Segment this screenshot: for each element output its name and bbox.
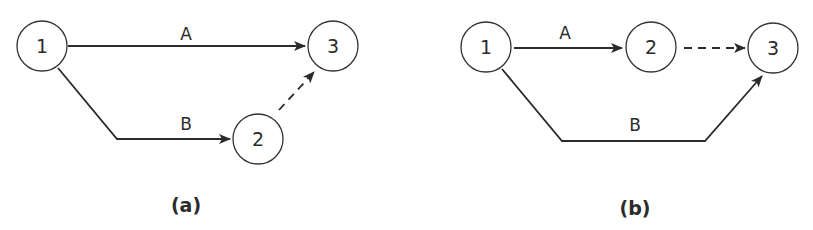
node-2: 2 — [626, 22, 676, 72]
network-diagrams: A B 1 3 2 (a) A B 1 2 — [0, 0, 813, 230]
edge-label-a: A — [180, 24, 192, 44]
diagram-a: A B 1 3 2 (a) — [17, 21, 358, 216]
svg-text:3: 3 — [767, 37, 779, 59]
edge-dummy-2-3 — [279, 72, 314, 110]
svg-text:1: 1 — [480, 36, 492, 58]
edge-label-b: B — [180, 114, 192, 134]
svg-text:2: 2 — [645, 36, 657, 58]
caption-b: (b) — [620, 197, 651, 219]
caption-a: (a) — [171, 194, 201, 216]
node-3: 3 — [748, 23, 798, 73]
svg-text:1: 1 — [36, 35, 48, 57]
diagram-b: A B 1 2 3 (b) — [461, 22, 798, 219]
edge-b-1-2 — [58, 68, 230, 139]
node-1: 1 — [17, 21, 67, 71]
svg-text:3: 3 — [327, 35, 339, 57]
node-2: 2 — [233, 114, 283, 164]
node-3: 3 — [308, 21, 358, 71]
svg-text:2: 2 — [252, 128, 264, 150]
node-1: 1 — [461, 22, 511, 72]
edge-label-a: A — [559, 23, 571, 43]
edge-label-b: B — [629, 115, 641, 135]
